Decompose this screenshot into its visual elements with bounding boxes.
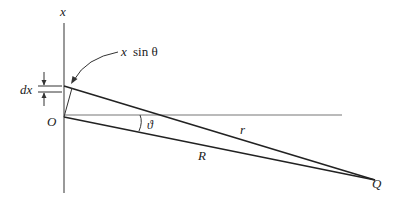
angle-arc [139,115,141,131]
dx-label: dx [20,82,33,97]
R-label: R [197,148,206,163]
annotation-arrow-head [71,76,78,84]
ray-r [64,86,375,180]
Q-label: Q [372,176,382,191]
axis-label: x [59,4,66,19]
annotation-label: x sin θ [120,44,158,59]
diffraction-geometry-diagram: x x sin θ dx O ϑ r R Q [0,0,397,202]
origin-label: O [47,114,57,129]
path-difference-line [64,88,72,117]
annotation-arrow [74,52,118,80]
dx-arrow-bottom-head [42,93,47,99]
ray-R [64,117,375,180]
angle-label: ϑ [147,118,154,132]
dx-arrow-top-head [42,80,47,86]
r-label: r [240,122,246,137]
